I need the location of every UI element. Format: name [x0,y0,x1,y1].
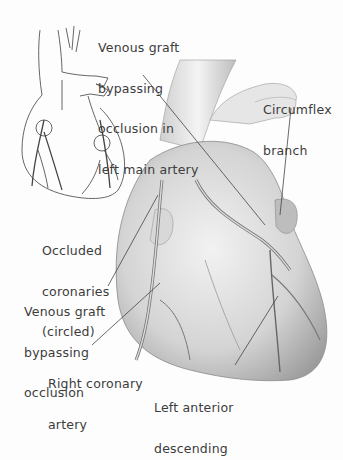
label-line: left main artery [98,163,199,177]
label-venous-graft-left-main: Venous graft bypassing occlusion in left… [98,14,199,203]
label-line: branch [263,144,332,158]
label-line: Circumflex [263,103,332,117]
label-line: Occluded [42,244,109,258]
label-line: artery [48,418,143,432]
label-line: Venous graft [98,41,199,55]
label-line: Venous graft [24,305,105,319]
label-circumflex-branch: Circumflex branch [263,76,332,184]
label-line: occlusion in [98,122,199,136]
label-left-anterior-descending: Left anterior descending [154,374,234,460]
label-line: Right coronary [48,377,143,391]
label-line: Left anterior [154,401,234,415]
label-line: descending [154,442,234,456]
label-line: bypassing [98,82,199,96]
label-right-coronary-artery: Right coronary artery [48,350,143,458]
